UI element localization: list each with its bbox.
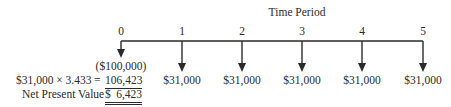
- period-label-4: 4: [359, 26, 365, 38]
- cash-flow-2: $31,000: [223, 75, 260, 87]
- cash-flow-4: $31,000: [343, 75, 380, 87]
- arrow-period-3: [298, 41, 306, 72]
- period-label-2: 2: [239, 26, 245, 38]
- pv-expression: $31,000 × 3.433: [16, 75, 92, 87]
- cash-flow-5: $31,000: [404, 75, 441, 87]
- arrow-period-4: [358, 41, 366, 72]
- arrow-period-5: [419, 41, 427, 72]
- cash-flow-0: ($100,000): [96, 61, 147, 73]
- period-label-3: 3: [299, 26, 305, 38]
- arrow-period-1: [178, 41, 186, 72]
- diagram-title: Time Period: [269, 7, 326, 19]
- arrow-period-0: [117, 41, 125, 58]
- cash-flow-3: $31,000: [283, 75, 320, 87]
- present-value: 106,423: [105, 75, 142, 89]
- npv-value: 6,423: [116, 89, 142, 101]
- cash-flow-1: $31,000: [163, 75, 200, 87]
- npv-label: Net Present Value: [22, 89, 104, 101]
- npv-amount: $ 6,423: [105, 89, 142, 105]
- period-label-0: 0: [118, 26, 124, 38]
- period-label-5: 5: [420, 26, 426, 38]
- period-label-1: 1: [179, 26, 185, 38]
- arrow-period-2: [238, 41, 246, 72]
- equals-sign: =: [94, 75, 101, 87]
- npv-currency: $: [105, 88, 111, 100]
